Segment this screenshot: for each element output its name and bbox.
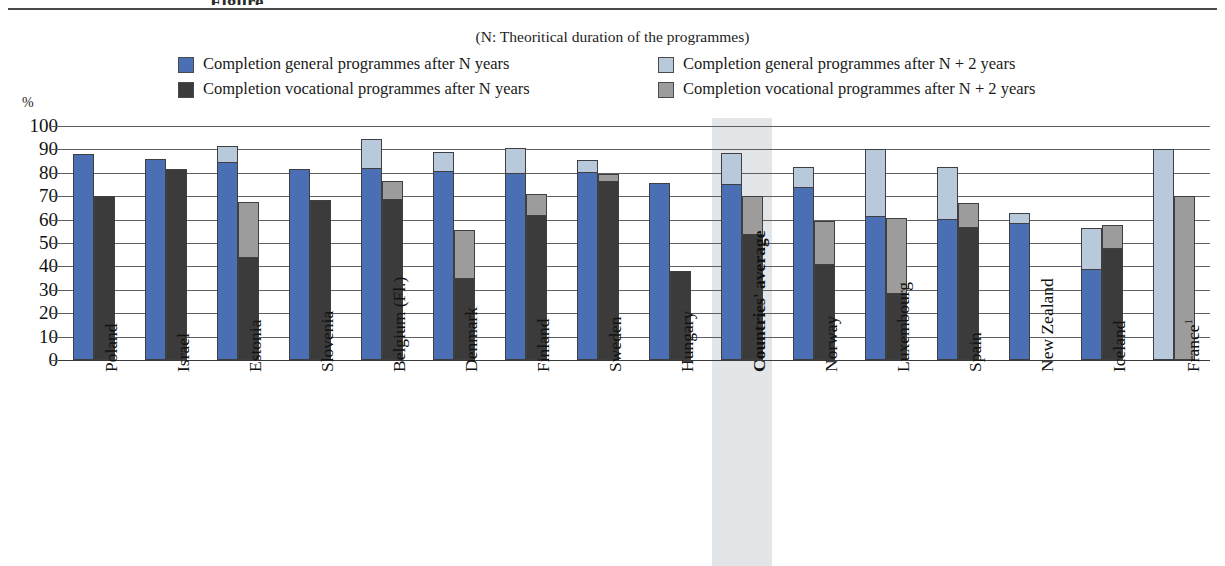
bar-general-estonia-lower-segment [218, 162, 237, 359]
x-axis-label-finland: Finland [535, 319, 553, 372]
bar-general-estonia [217, 146, 238, 360]
bar-general-poland-segment [74, 155, 93, 359]
bar-vocational-norway-upper-segment [815, 222, 834, 266]
bar-general-slovenia-segment [290, 170, 309, 359]
bar-general-new-zealand [1009, 213, 1030, 360]
x-axis-label-luxembourg: Luxembourg [895, 282, 913, 372]
bar-general-hungary-segment [650, 184, 669, 359]
x-axis-label-poland: Poland [103, 323, 121, 372]
y-tick-mark-10 [49, 337, 58, 338]
bar-general-denmark [433, 152, 454, 360]
bar-general-hungary [649, 183, 670, 360]
bar-general-denmark-upper-segment [434, 153, 453, 173]
bar-vocational-finland-upper-segment [527, 195, 546, 217]
x-axis-label-sweden: Sweden [607, 317, 625, 372]
bar-general-sweden-lower-segment [578, 172, 597, 359]
x-axis-label-new-zealand: New Zealand [1039, 278, 1057, 372]
y-tick-mark-50 [49, 243, 58, 244]
plot-area: % 1009080706050403020100 PolandIsraelEst… [0, 0, 1225, 566]
bar-general-slovenia [289, 169, 310, 360]
bar-vocational-israel [166, 169, 187, 360]
bar-general-finland-upper-segment [506, 149, 525, 175]
x-axis-label-slovenia: Slovenia [319, 311, 337, 372]
bar-general-spain-lower-segment [938, 219, 957, 359]
bar-general-norway-upper-segment [794, 168, 813, 189]
y-axis-tick-labels: 1009080706050403020100 [6, 0, 58, 566]
bar-general-israel-segment [146, 160, 165, 359]
bar-general-finland-lower-segment [506, 173, 525, 359]
x-axis-label-countries-average: Countries' average [751, 231, 769, 372]
bar-general-countries-average-upper-segment [722, 154, 741, 186]
y-tick-mark-20 [49, 313, 58, 314]
y-tick-mark-80 [49, 173, 58, 174]
bar-general-france-segment [1154, 150, 1173, 359]
x-axis-label-denmark: Denmark [463, 307, 481, 372]
bar-general-iceland-upper-segment [1082, 229, 1101, 271]
bar-general-sweden [577, 160, 598, 360]
bar-general-luxembourg-lower-segment [866, 216, 885, 359]
bar-general-luxembourg [865, 149, 886, 360]
bar-general-finland [505, 148, 526, 360]
bar-general-israel [145, 159, 166, 360]
bar-general-denmark-lower-segment [434, 171, 453, 359]
x-axis-label-france: France1 [1183, 319, 1202, 372]
bar-general-france [1153, 149, 1174, 360]
x-axis-label-iceland: Iceland [1111, 321, 1129, 373]
y-tick-mark-0 [49, 360, 58, 361]
bar-general-belgium-fl--lower-segment [362, 168, 381, 359]
bar-general-poland [73, 154, 94, 360]
x-axis-label-spain: Spain [967, 332, 985, 372]
bar-general-iceland [1081, 228, 1102, 360]
bar-vocational-denmark-upper-segment [455, 231, 474, 280]
bar-general-countries-average-lower-segment [722, 184, 741, 360]
bar-vocational-israel-segment [167, 170, 186, 359]
bar-general-belgium-fl--upper-segment [362, 140, 381, 170]
y-tick-mark-90 [49, 149, 58, 150]
y-tick-mark-100 [49, 126, 58, 127]
x-axis-label-israel: Israel [175, 333, 193, 372]
y-tick-mark-40 [49, 266, 58, 267]
bar-vocational-iceland-upper-segment [1103, 226, 1122, 249]
bar-general-iceland-lower-segment [1082, 269, 1101, 359]
bar-general-new-zealand-lower-segment [1010, 223, 1029, 359]
bar-general-norway [793, 167, 814, 360]
y-tick-mark-60 [49, 220, 58, 221]
y-tick-mark-30 [49, 290, 58, 291]
bar-vocational-estonia-upper-segment [239, 203, 258, 259]
bar-general-spain [937, 167, 958, 360]
bar-general-spain-upper-segment [938, 168, 957, 221]
x-axis-label-estonia: Estonia [247, 320, 265, 373]
x-axis-label-hungary: Hungary [679, 311, 697, 372]
bar-general-luxembourg-upper-segment [866, 150, 885, 218]
bar-vocational-spain-upper-segment [959, 204, 978, 229]
bar-general-norway-lower-segment [794, 187, 813, 359]
x-axis-label-norway: Norway [823, 316, 841, 372]
x-axis-label-belgium-fl-: Belgium (Fl.) [391, 277, 409, 372]
bar-general-countries-average [721, 153, 742, 360]
y-tick-mark-70 [49, 196, 58, 197]
bar-general-belgium-fl- [361, 139, 382, 360]
